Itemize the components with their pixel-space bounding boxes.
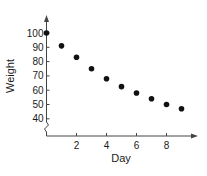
data-point bbox=[179, 106, 185, 112]
data-point bbox=[119, 84, 125, 90]
y-tick-label: 70 bbox=[32, 70, 44, 81]
y-tick-label: 90 bbox=[32, 42, 44, 53]
data-point bbox=[104, 76, 110, 82]
data-point bbox=[44, 30, 50, 36]
x-tick-label: 8 bbox=[164, 140, 170, 151]
y-tick-label: 40 bbox=[32, 113, 44, 124]
x-axis-arrow-icon bbox=[191, 134, 198, 139]
x-tick-label: 6 bbox=[134, 140, 140, 151]
axes bbox=[44, 15, 198, 139]
data-point bbox=[89, 66, 95, 72]
x-axis-title: Day bbox=[111, 152, 131, 164]
data-point bbox=[134, 90, 140, 96]
x-tick-label: 2 bbox=[74, 140, 80, 151]
scatter-chart: 405060708090100 2468 Day Weight bbox=[0, 0, 207, 176]
data-point bbox=[149, 96, 155, 102]
y-tick-label: 50 bbox=[32, 99, 44, 110]
axis-break-icon bbox=[45, 122, 49, 136]
y-axis-arrow-icon bbox=[44, 15, 49, 22]
data-points bbox=[44, 30, 185, 111]
x-tick-label: 4 bbox=[104, 140, 110, 151]
data-point bbox=[74, 55, 80, 61]
data-point bbox=[164, 102, 170, 108]
y-tick-label: 60 bbox=[32, 85, 44, 96]
y-axis-title: Weight bbox=[4, 59, 16, 93]
y-tick-label: 100 bbox=[27, 28, 44, 39]
data-point bbox=[59, 43, 65, 49]
y-tick-label: 80 bbox=[32, 56, 44, 67]
